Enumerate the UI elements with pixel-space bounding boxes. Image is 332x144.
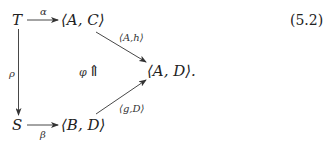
equation-number: (5.2) [290,13,323,27]
double-arrow-up-icon: ⇑ [88,64,101,79]
node-S: S [12,118,22,133]
label-alpha: α [40,7,47,17]
node-A-D: ⟨A, D⟩. [147,64,196,79]
label-g-D: ⟨g,D⟩ [119,104,144,114]
label-rho: ρ [9,69,15,79]
node-A-C: ⟨A, C⟩ [61,13,105,28]
node-T: T [12,13,22,28]
commutative-diagram: T ⟨A, C⟩ ⟨A, D⟩. S ⟨B, D⟩ α ρ β ⟨A,h⟩ ⟨g… [0,0,332,144]
node-B-D: ⟨B, D⟩ [61,118,105,133]
label-A-h: ⟨A,h⟩ [119,33,144,43]
label-phi: φ [79,67,87,78]
label-beta: β [40,130,46,140]
